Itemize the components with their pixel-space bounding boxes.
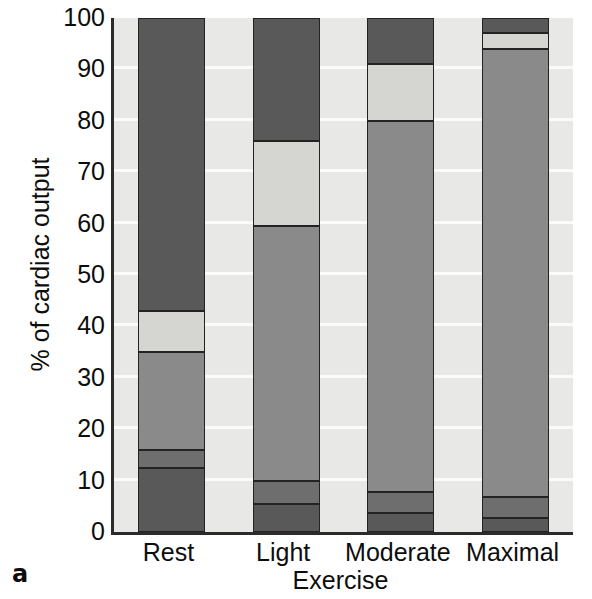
x-axis-title: Exercise (111, 566, 570, 595)
y-tick-label: 50 (50, 262, 105, 287)
bar-rest[interactable] (138, 18, 205, 532)
x-tick-label-light: Light (226, 537, 341, 567)
bar-segment (482, 518, 549, 532)
bar-segment (253, 226, 320, 480)
bar-segment (138, 468, 205, 532)
y-tick-label: 100 (50, 5, 105, 30)
y-tick-label: 60 (50, 211, 105, 236)
bar-segment (482, 18, 549, 33)
y-tick-label: 70 (50, 159, 105, 184)
bar-segment (367, 513, 434, 532)
plot-area (111, 18, 573, 535)
bar-moderate[interactable] (367, 18, 434, 532)
figure-panel-a: % of cardiac output 10090807060504030201… (0, 0, 592, 599)
y-tick-label: 0 (50, 519, 105, 544)
bar-segment (253, 18, 320, 141)
bar-segment (367, 121, 434, 492)
bar-segment (367, 492, 434, 513)
bar-maximal[interactable] (482, 18, 549, 532)
y-tick-label: 40 (50, 313, 105, 338)
y-tick-label: 80 (50, 108, 105, 133)
bar-light[interactable] (253, 18, 320, 532)
y-axis-tick-labels: 1009080706050403020100 (50, 0, 105, 599)
bar-segment (367, 18, 434, 64)
bar-segment (482, 49, 549, 497)
y-tick-label: 10 (50, 468, 105, 493)
bar-segment (482, 33, 549, 48)
bar-segment (138, 311, 205, 352)
bar-segment (138, 352, 205, 450)
bar-segment (253, 481, 320, 504)
x-tick-label-moderate: Moderate (341, 537, 456, 567)
bar-segment (253, 141, 320, 226)
x-tick-label-rest: Rest (111, 537, 226, 567)
bar-segment (138, 18, 205, 311)
panel-letter: a (12, 560, 28, 588)
bar-segment (253, 504, 320, 532)
y-tick-label: 20 (50, 416, 105, 441)
y-tick-label: 90 (50, 56, 105, 81)
bar-segment (367, 64, 434, 121)
bar-segment (482, 497, 549, 518)
x-tick-label-maximal: Maximal (455, 537, 570, 567)
bar-segment (138, 450, 205, 468)
y-tick-label: 30 (50, 365, 105, 390)
